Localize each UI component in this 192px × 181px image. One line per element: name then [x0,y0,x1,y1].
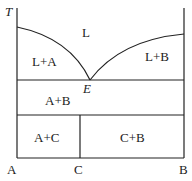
eutectic-point-label: E [83,82,91,95]
region-c-b: C+B [120,131,145,144]
diagram-lines [0,0,192,181]
phase-diagram: T L L+A L+B E A+B A+C C+B A C B [0,0,192,181]
x-label-b: B [179,163,188,176]
x-label-a: A [7,163,16,176]
region-liquid: L [82,26,90,39]
axis-label-t: T [5,5,12,18]
region-a-c: A+C [34,131,59,144]
region-l-a: L+A [32,55,57,68]
x-label-c: C [74,163,83,176]
region-a-b: A+B [45,94,70,107]
region-l-b: L+B [145,50,169,63]
